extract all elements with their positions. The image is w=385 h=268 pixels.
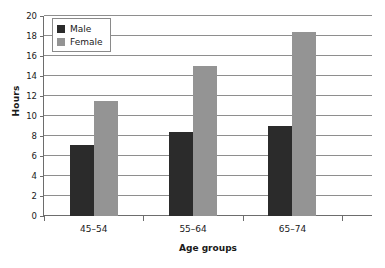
legend-label: Male bbox=[70, 24, 91, 34]
bar-female-55-64 bbox=[193, 66, 217, 216]
x-axis-tick-labels: 45–5455–6465–74 bbox=[44, 224, 372, 238]
bar-male-45-54 bbox=[70, 145, 94, 216]
y-tick-label: 14 bbox=[3, 71, 37, 81]
legend-label: Female bbox=[70, 37, 103, 47]
y-tick-label: 6 bbox=[3, 151, 37, 161]
y-tick-label: 0 bbox=[3, 211, 37, 221]
legend: MaleFemale bbox=[52, 18, 111, 52]
y-tick-label: 16 bbox=[3, 51, 37, 61]
x-axis-ticks bbox=[44, 216, 372, 222]
bar-female-65-74 bbox=[292, 32, 316, 216]
x-tick-label: 65–74 bbox=[279, 224, 306, 234]
legend-item-female[interactable]: Female bbox=[57, 35, 103, 48]
gridline bbox=[44, 15, 372, 16]
y-tick-label: 12 bbox=[3, 91, 37, 101]
bar-female-45-54 bbox=[94, 101, 118, 216]
x-tick-mark bbox=[143, 216, 144, 221]
bar-male-55-64 bbox=[169, 132, 193, 216]
gridline bbox=[44, 55, 372, 56]
y-tick-label: 2 bbox=[3, 191, 37, 201]
x-tick-mark bbox=[243, 216, 244, 221]
y-tick-label: 18 bbox=[3, 31, 37, 41]
y-axis-ticks: 02468101214161820 bbox=[0, 16, 44, 217]
x-axis-title: Age groups bbox=[44, 243, 372, 253]
x-tick-mark bbox=[342, 216, 343, 221]
y-tick-label: 20 bbox=[3, 11, 37, 21]
y-tick-label: 8 bbox=[3, 131, 37, 141]
x-tick-label: 55–64 bbox=[179, 224, 206, 234]
bar-male-65-74 bbox=[268, 126, 292, 216]
y-tick-label: 4 bbox=[3, 171, 37, 181]
y-tick-label: 10 bbox=[3, 111, 37, 121]
legend-swatch-icon bbox=[57, 38, 65, 46]
x-tick-mark bbox=[44, 216, 45, 221]
bar-chart: Hours 02468101214161820 45–5455–6465–74 … bbox=[0, 0, 385, 268]
x-tick-label: 45–54 bbox=[80, 224, 107, 234]
legend-item-male[interactable]: Male bbox=[57, 22, 103, 35]
legend-swatch-icon bbox=[57, 25, 65, 33]
